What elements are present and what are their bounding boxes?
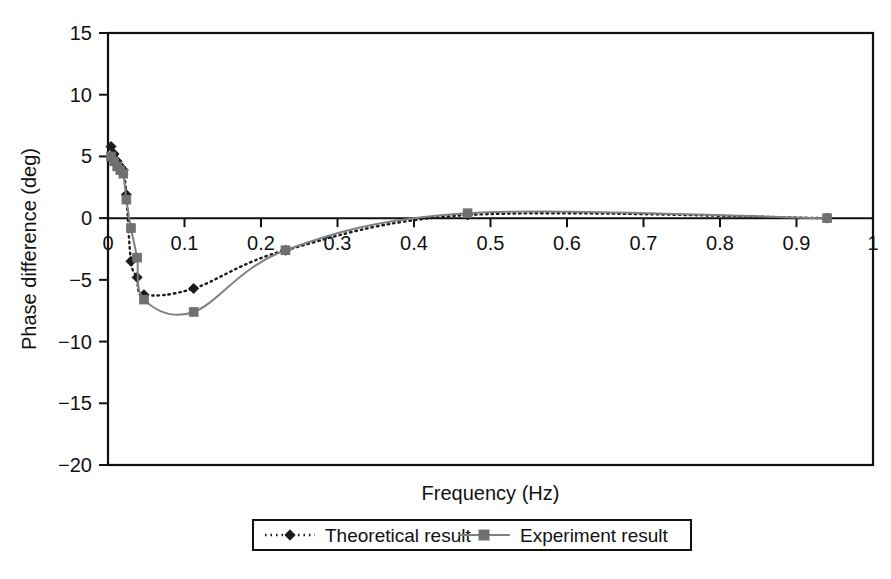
y-tick-label: 5 [81, 145, 92, 167]
y-axis-title: Phase difference (deg) [18, 148, 40, 350]
data-point-marker [127, 224, 136, 233]
x-tick-label: 0.4 [400, 232, 428, 254]
x-tick-label: 0.6 [553, 232, 581, 254]
data-point-marker [823, 214, 832, 223]
x-tick-label: 1 [867, 232, 878, 254]
x-tick-label: 0.8 [706, 232, 734, 254]
y-tick-label: 10 [70, 84, 92, 106]
y-tick-label: −10 [58, 331, 92, 353]
chart-figure: 00.10.20.30.40.50.60.70.80.91151050−5−10… [0, 0, 891, 579]
data-point-marker [133, 253, 142, 262]
data-point-marker [119, 169, 128, 178]
data-point-marker [140, 295, 149, 304]
legend-marker-square-icon [479, 530, 489, 540]
data-point-marker [281, 246, 290, 255]
chart-legend: Theoretical resultExperiment result [253, 520, 691, 550]
x-tick-label: 0.9 [783, 232, 811, 254]
x-tick-label: 0.7 [630, 232, 658, 254]
y-tick-label: 0 [81, 207, 92, 229]
data-point-marker [122, 195, 131, 204]
legend-label-experiment: Experiment result [520, 525, 669, 546]
x-tick-label: 0.2 [247, 232, 275, 254]
legend-label-theoretical: Theoretical result [325, 525, 471, 546]
x-tick-label: 0.5 [477, 232, 505, 254]
y-tick-label: −15 [58, 392, 92, 414]
y-tick-label: 15 [70, 22, 92, 44]
x-tick-label: 0.1 [171, 232, 199, 254]
x-axis-title: Frequency (Hz) [422, 482, 560, 504]
data-point-marker [189, 283, 199, 293]
chart-svg: 00.10.20.30.40.50.60.70.80.91151050−5−10… [0, 0, 891, 579]
x-tick-label: 0 [102, 232, 113, 254]
series-1 [106, 142, 832, 300]
data-point-marker [463, 209, 472, 218]
data-point-marker [189, 308, 198, 317]
y-tick-label: −5 [69, 269, 92, 291]
y-tick-label: −20 [58, 454, 92, 476]
